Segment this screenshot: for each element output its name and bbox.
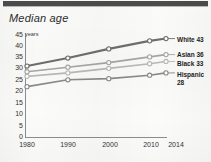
data-point-black-2014 (164, 59, 168, 63)
data-point-black-1980 (25, 74, 29, 78)
data-point-white-1980 (25, 64, 29, 68)
data-point-white-2000 (107, 47, 111, 51)
data-point-asian-2014 (164, 53, 168, 57)
median-age-chart-figure: Median age 45 40 35 30 25 20 15 10 5 0 y… (0, 0, 211, 162)
data-point-hispanic-1980 (25, 85, 29, 89)
data-point-hispanic-2014 (164, 71, 168, 75)
series-line-white (27, 39, 166, 66)
data-point-white-2010 (148, 39, 152, 43)
data-point-white-1990 (66, 56, 70, 60)
series-plot-area (0, 0, 211, 162)
data-point-white-2014 (164, 36, 168, 40)
data-point-hispanic-2000 (107, 77, 111, 81)
data-point-asian-2010 (148, 55, 152, 59)
series-group (25, 36, 175, 88)
data-point-black-2000 (107, 66, 111, 70)
data-point-black-1990 (66, 71, 70, 75)
data-point-black-2010 (148, 62, 152, 66)
data-point-asian-2000 (107, 61, 111, 65)
data-point-hispanic-1990 (66, 78, 70, 82)
data-point-asian-1990 (66, 65, 70, 69)
data-point-hispanic-2010 (148, 73, 152, 77)
data-point-asian-1980 (25, 70, 29, 74)
